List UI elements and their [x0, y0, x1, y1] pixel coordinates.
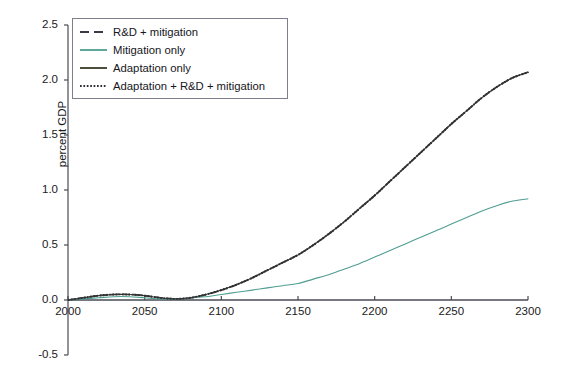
series-line [68, 72, 528, 300]
x-tick-label: 2050 [122, 305, 168, 317]
x-tick-label: 2200 [352, 305, 398, 317]
series-line [68, 199, 528, 300]
legend-line-swatch [79, 26, 108, 38]
legend-label: Adaptation + R&D + mitigation [113, 80, 265, 92]
chart-figure: percent GDP -0.50.00.51.01.52.02.5 20002… [0, 0, 570, 373]
legend-line-swatch [79, 62, 108, 74]
y-tick-label: 2.0 [24, 73, 58, 85]
x-tick-label: 2100 [198, 305, 244, 317]
x-tick-label: 2250 [428, 305, 474, 317]
legend-line-swatch [79, 80, 108, 92]
legend-label: Mitigation only [113, 44, 185, 56]
chart-legend: R&D + mitigationMitigation onlyAdaptatio… [72, 18, 288, 99]
legend-item: Adaptation only [79, 59, 282, 77]
series-line [68, 72, 528, 300]
y-tick-label: 1.0 [24, 183, 58, 195]
legend-label: Adaptation only [113, 62, 191, 74]
series-line [68, 72, 528, 300]
y-tick-label: 0.0 [24, 293, 58, 305]
legend-item: Adaptation + R&D + mitigation [79, 77, 282, 95]
legend-item: Mitigation only [79, 41, 282, 59]
x-tick-label: 2300 [505, 305, 551, 317]
y-tick-label: -0.5 [24, 348, 58, 360]
figure-caption [0, 366, 570, 373]
x-tick-label: 2150 [275, 305, 321, 317]
y-tick-label: 1.5 [24, 128, 58, 140]
legend-item: R&D + mitigation [79, 23, 282, 41]
chart-series [68, 72, 528, 300]
y-tick-label: 0.5 [24, 238, 58, 250]
legend-line-swatch [79, 44, 108, 56]
x-tick-label: 2000 [45, 305, 91, 317]
legend-label: R&D + mitigation [113, 26, 198, 38]
y-tick-label: 2.5 [24, 18, 58, 30]
